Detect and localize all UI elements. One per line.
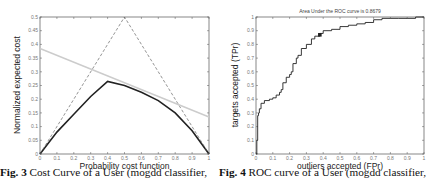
cost-curve-xtick-label: 0.1	[53, 155, 60, 161]
figure-4-caption: Fig. 4 ROC curve of a User (mogdd classi…	[219, 166, 426, 178]
roc-curve-ytick-label: 0.7	[247, 55, 254, 61]
roc-curve-ytick-label: 1	[251, 14, 254, 20]
cost-curve-xtick-label: 0.2	[70, 155, 77, 161]
cost-curve-ytick-label: 0.35	[28, 55, 38, 61]
cost-curve-ytick-label: 0	[35, 151, 38, 157]
roc-curve-plot: 00.10.20.30.40.50.60.70.80.9100.10.20.30…	[230, 8, 426, 171]
cost-curve-ytick-label: 0.5	[31, 14, 38, 20]
roc-curve-ytick-label: 0.9	[247, 27, 254, 33]
roc-curve-ytick-label: 0.8	[247, 41, 254, 47]
figure-3-label: Fig. 3	[0, 166, 27, 178]
cost-curve-series-line	[40, 49, 209, 118]
cost-curve-plot: 00.10.20.30.40.50.60.70.80.9100.050.10.1…	[12, 14, 211, 171]
roc-curve-xtick-label: 0.9	[404, 155, 411, 161]
roc-curve-xtick-label: 0.8	[387, 155, 394, 161]
cost-curve-ytick-label: 0.05	[28, 137, 38, 143]
roc-curve-ytick-label: 0.4	[247, 96, 254, 102]
cost-curve-ylabel: Normalized expected cost	[12, 35, 22, 133]
figure-3-caption-text: Cost Curve of a User (mogdd classifier,	[27, 166, 207, 178]
roc-curve-operating-point-marker	[318, 33, 322, 37]
roc-curve-ytick-label: 0.1	[247, 137, 254, 143]
figure-4-label: Fig. 4	[219, 166, 246, 178]
cost-curve-ytick-label: 0.25	[28, 82, 38, 88]
cost-curve-ytick-label: 0.4	[31, 41, 38, 47]
roc-curve-axes-box	[256, 17, 424, 154]
cost-curve-ytick-label: 0.1	[31, 123, 38, 129]
cost-curve-ytick-label: 0.3	[31, 69, 38, 75]
figure-4-caption-text: ROC curve of a User (mogdd classifier,	[246, 166, 426, 178]
roc-curve-ytick-label: 0.5	[247, 82, 254, 88]
roc-curve-ytick-label: 0	[251, 151, 254, 157]
cost-curve-xtick-label: 0.9	[189, 155, 196, 161]
cost-curve-ytick-label: 0.2	[31, 96, 38, 102]
roc-curve-xtick-label: 0.1	[269, 155, 276, 161]
roc-curve-xtick-label: 0	[255, 155, 258, 161]
roc-curve-ytick-label: 0.2	[247, 123, 254, 129]
cost-curve-series-line	[40, 81, 209, 154]
roc-curve-title: Area Under the ROC curve is 0.8679	[299, 8, 381, 14]
figure-canvas: 00.10.20.30.40.50.60.70.80.9100.050.10.1…	[0, 0, 439, 182]
cost-curve-ytick-label: 0.15	[28, 110, 38, 116]
cost-curve-xtick-label: 0	[39, 155, 42, 161]
roc-curve-xtick-label: 1	[423, 155, 426, 161]
cost-curve-ytick-label: 0.45	[28, 27, 38, 33]
roc-curve-ytick-label: 0.3	[247, 110, 254, 116]
roc-curve-ylabel: targets accepted (TPr)	[230, 43, 240, 128]
roc-curve-xtick-label: 0.2	[286, 155, 293, 161]
roc-curve-series-line	[256, 17, 424, 154]
cost-curve-xtick-label: 0.8	[172, 155, 179, 161]
roc-curve-ytick-label: 0.6	[247, 69, 254, 75]
cost-curve-xtick-label: 1	[208, 155, 211, 161]
figure-3-caption: Fig. 3 Cost Curve of a User (mogdd class…	[0, 166, 207, 178]
